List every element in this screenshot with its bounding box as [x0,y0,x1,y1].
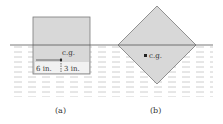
floating-block-diagram: c.g. 6 in. 3 in. c.g. (a) (b) [0,0,223,124]
cg-label-b: c.g. [149,52,162,60]
dim-label-6in: 6 in. [36,65,52,73]
caption-a: (a) [55,106,66,115]
dim-label-3in: 3 in. [64,65,80,73]
caption-b: (b) [150,106,161,115]
cg-marker-b [144,54,147,57]
cg-marker-a [60,59,62,61]
cg-label-a: c.g. [62,49,75,57]
